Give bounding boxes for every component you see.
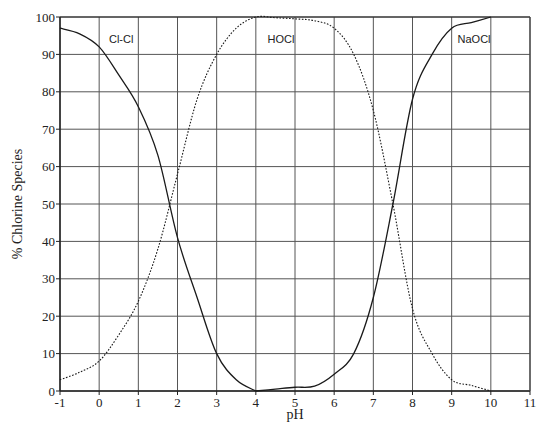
series-line-cl-cl [60, 28, 256, 391]
x-tick-label: 7 [370, 395, 377, 410]
x-tick-label: 10 [484, 395, 497, 410]
series-label-naocl: NaOCl [458, 33, 491, 45]
gridlines [60, 17, 530, 391]
x-tick-label: 2 [174, 395, 181, 410]
x-tick-label: 0 [96, 395, 103, 410]
y-tick-label: 100 [36, 10, 56, 25]
x-tick-label: 3 [213, 395, 220, 410]
series-labels: Cl-ClHOClNaOCl [109, 33, 491, 45]
x-tick-label: 9 [448, 395, 455, 410]
y-tick-label: 10 [42, 346, 55, 361]
series-label-cl-cl: Cl-Cl [109, 33, 133, 45]
y-tick-label: 90 [42, 47, 55, 62]
x-axis-title: pH [286, 407, 303, 422]
x-tick-label: 4 [253, 395, 260, 410]
y-axis-ticks: 0102030405060708090100 [36, 10, 61, 399]
y-axis-title: % Chlorine Species [10, 149, 25, 259]
y-tick-label: 80 [42, 84, 55, 99]
y-tick-label: 50 [42, 197, 55, 212]
x-tick-label: 11 [524, 395, 537, 410]
y-tick-label: 0 [49, 384, 56, 399]
y-tick-label: 30 [42, 271, 55, 286]
y-tick-label: 70 [42, 122, 55, 137]
x-tick-label: -1 [55, 395, 66, 410]
y-tick-label: 60 [42, 159, 55, 174]
series-label-hocl: HOCl [268, 33, 295, 45]
y-tick-label: 20 [42, 309, 55, 324]
x-tick-label: 1 [135, 395, 142, 410]
y-tick-label: 40 [42, 234, 55, 249]
x-tick-label: 8 [409, 395, 416, 410]
x-tick-label: 6 [331, 395, 338, 410]
chart: -101234567891011 0102030405060708090100 … [0, 0, 549, 431]
